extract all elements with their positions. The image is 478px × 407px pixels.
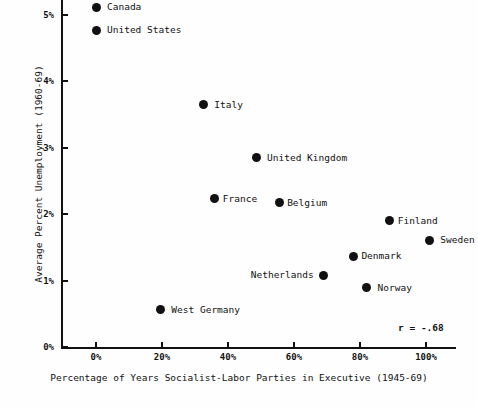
x-tick-mark (161, 342, 163, 347)
x-tick-mark (359, 342, 361, 347)
y-tick-mark (63, 147, 68, 149)
x-tick-label: 80% (338, 352, 382, 362)
data-point-label: Norway (378, 283, 412, 293)
x-axis-line (61, 347, 456, 349)
data-point-marker (92, 3, 101, 12)
x-tick-mark (425, 342, 427, 347)
x-tick-label: 100% (404, 352, 448, 362)
data-point-label: France (223, 194, 257, 204)
scatter-plot-figure: 0%1%2%3%4%5% 0%20%40%60%80%100% CanadaUn… (0, 0, 478, 407)
data-point-marker (385, 216, 394, 225)
x-tick-mark (293, 342, 295, 347)
y-tick-mark (63, 213, 68, 215)
data-point-label: Denmark (361, 251, 401, 261)
data-point-marker (252, 153, 261, 162)
y-tick-label: 5% (26, 10, 54, 20)
data-point-marker (156, 305, 165, 314)
y-tick-mark (63, 346, 68, 348)
y-tick-mark (63, 14, 68, 16)
data-point-marker (362, 283, 371, 292)
x-tick-label: 0% (74, 352, 118, 362)
data-point-marker (425, 236, 434, 245)
y-tick-mark (63, 80, 68, 82)
x-tick-label: 40% (206, 352, 250, 362)
x-tick-mark (227, 342, 229, 347)
data-point-label: Italy (214, 100, 243, 110)
data-point-marker (349, 252, 358, 261)
y-tick-label: 0% (26, 342, 54, 352)
data-point-label: United Kingdom (267, 153, 347, 163)
data-point-marker (275, 198, 284, 207)
data-point-label: United States (107, 25, 181, 35)
y-axis-line (61, 0, 63, 349)
data-point-label: Belgium (287, 198, 327, 208)
data-point-label: West Germany (171, 305, 240, 315)
data-point-label: Canada (107, 2, 141, 12)
data-point-marker (319, 271, 328, 280)
correlation-annotation: r = -.68 (398, 322, 444, 333)
data-point-label: Sweden (440, 235, 474, 245)
data-point-label: Finland (398, 216, 438, 226)
data-point-marker (92, 26, 101, 35)
data-point-label: Netherlands (251, 270, 314, 280)
x-tick-label: 20% (140, 352, 184, 362)
x-tick-mark (95, 342, 97, 347)
data-point-marker (199, 100, 208, 109)
y-tick-mark (63, 280, 68, 282)
data-point-marker (210, 194, 219, 203)
x-axis-title: Percentage of Years Socialist-Labor Part… (0, 372, 478, 384)
y-axis-title: Average Percent Unemployment (1960-69) (33, 49, 45, 299)
x-tick-label: 60% (272, 352, 316, 362)
